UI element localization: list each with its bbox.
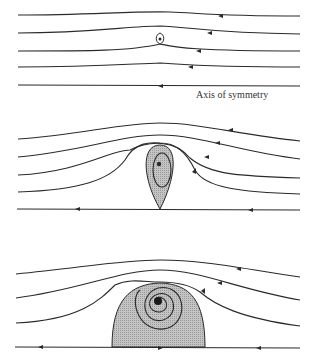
- axis-of-symmetry-label: Axis of symmetry: [196, 89, 268, 100]
- bottom-panel: [15, 260, 300, 350]
- top-panel: [18, 12, 300, 88]
- streamline-diagram: [0, 0, 311, 360]
- middle-panel: [17, 123, 300, 212]
